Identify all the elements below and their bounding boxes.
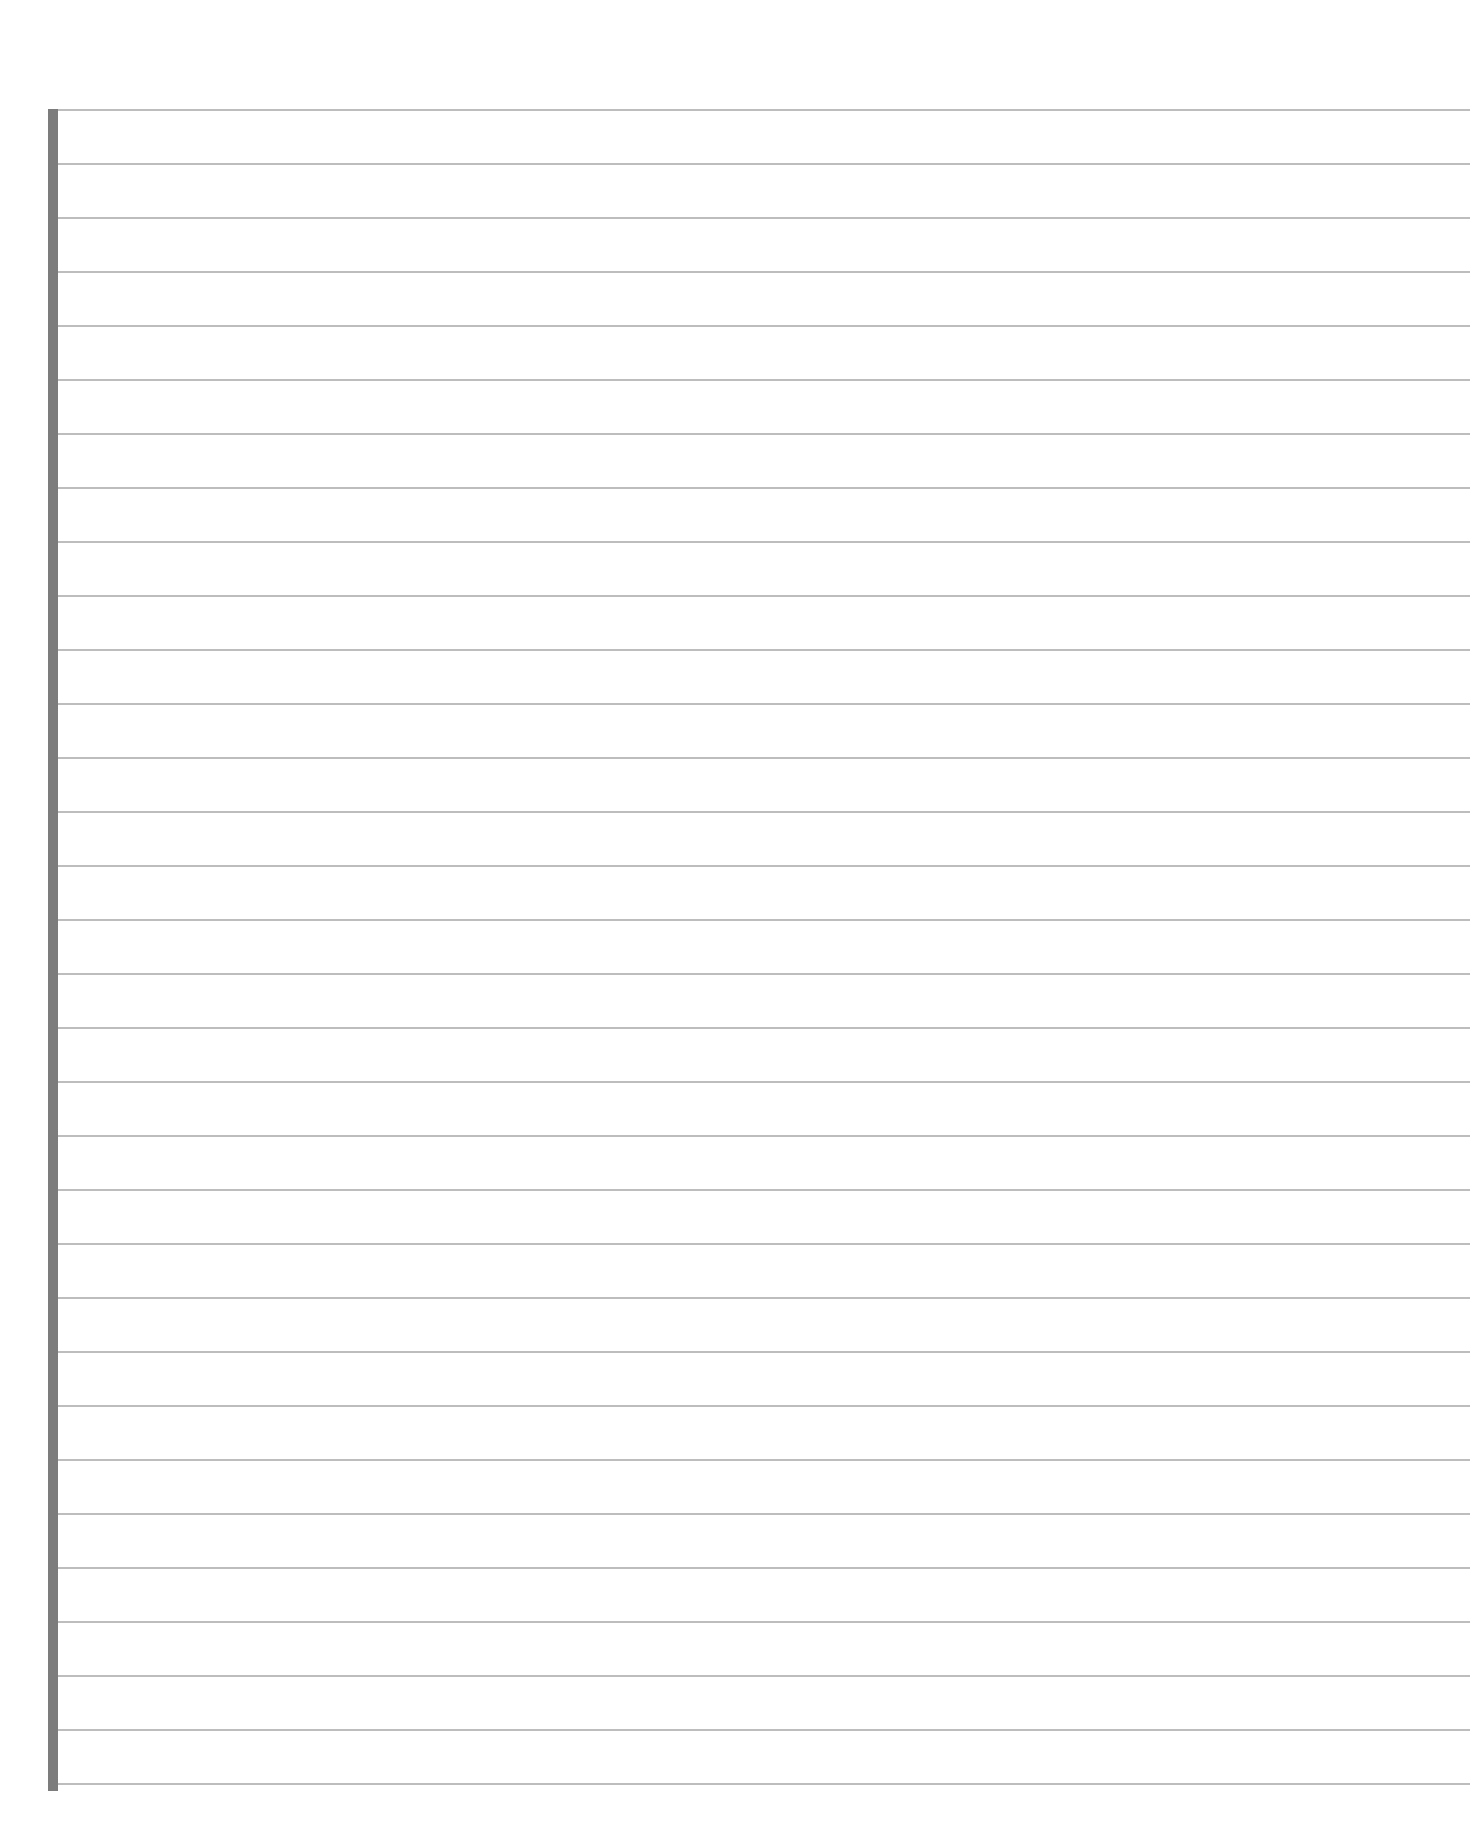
ruled-line	[58, 217, 1470, 219]
ruled-line	[58, 1135, 1470, 1137]
ruled-line	[58, 703, 1470, 705]
ruled-line	[58, 1081, 1470, 1083]
ruled-line	[58, 1729, 1470, 1731]
ruled-line	[58, 433, 1470, 435]
ruled-line	[58, 1513, 1470, 1515]
ruled-line	[58, 919, 1470, 921]
ruled-line	[58, 271, 1470, 273]
ruled-line	[58, 1243, 1470, 1245]
ruled-line	[58, 109, 1470, 111]
ruled-line	[58, 649, 1470, 651]
ruled-line	[58, 1297, 1470, 1299]
ruled-line	[58, 1621, 1470, 1623]
ruled-line	[58, 1783, 1470, 1785]
ruled-line	[58, 1351, 1470, 1353]
lined-paper-sheet	[48, 109, 1470, 1791]
ruled-line	[58, 163, 1470, 165]
ruled-line	[58, 1189, 1470, 1191]
ruled-line	[58, 865, 1470, 867]
ruled-line	[58, 1405, 1470, 1407]
ruled-line	[58, 379, 1470, 381]
ruled-line	[58, 487, 1470, 489]
ruled-line	[58, 1027, 1470, 1029]
ruled-line	[58, 1675, 1470, 1677]
ruled-line	[58, 757, 1470, 759]
ruled-line	[58, 811, 1470, 813]
ruled-line	[58, 595, 1470, 597]
ruled-line	[58, 1459, 1470, 1461]
ruled-line	[58, 973, 1470, 975]
ruled-line	[58, 541, 1470, 543]
ruled-line	[58, 1567, 1470, 1569]
left-margin-bar	[48, 109, 58, 1791]
ruled-line	[58, 325, 1470, 327]
